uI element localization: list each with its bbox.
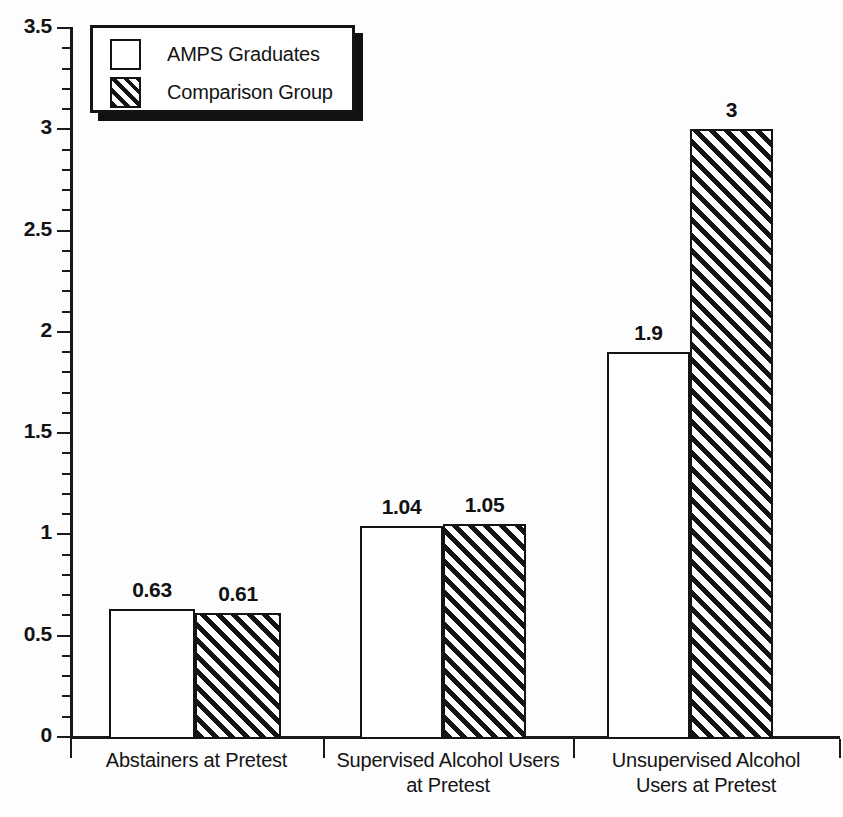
y-tick-minor [62,149,71,151]
y-tick-minor [62,594,71,596]
y-tick-label: 2 [0,318,52,342]
x-axis-label-line: Abstainers at Pretest [70,748,323,773]
y-tick-minor [62,452,71,454]
y-tick-minor [62,290,71,292]
x-axis-category-label: Abstainers at Pretest [70,748,323,773]
chart-page: 00.511.522.533.5 0.630.611.041.051.93 Ab… [0,0,843,817]
y-tick-minor [62,554,71,556]
category-separator-tick [839,739,841,758]
hatched-square-swatch-icon [110,77,141,108]
y-tick-minor [62,675,71,677]
y-tick-minor [62,655,71,657]
y-tick-major [57,533,71,535]
x-axis-label-line: Users at Pretest [573,773,839,798]
y-tick-major [57,128,71,130]
bar [607,352,690,739]
y-tick-label: 3 [0,115,52,139]
y-tick-minor [62,108,71,110]
x-axis-label-line: Unsupervised Alcohol [573,748,839,773]
y-tick-label: 1.5 [0,419,52,443]
bar [690,129,773,739]
y-tick-minor [62,88,71,90]
y-tick-minor [62,716,71,718]
bar-value-label: 1.9 [607,321,690,345]
y-tick-minor [62,695,71,697]
y-tick-major [57,736,71,738]
y-tick-minor [62,351,71,353]
y-axis-line [70,27,73,739]
y-tick-minor [62,513,71,515]
y-tick-major [57,230,71,232]
bar-value-label: 1.05 [443,493,526,517]
bar-value-label: 0.61 [195,582,281,606]
y-tick-minor [62,169,71,171]
bar-value-label: 3 [690,98,773,122]
white-square-swatch-icon [110,39,141,70]
y-tick-label: 2.5 [0,217,52,241]
bar [360,526,443,739]
bar [109,609,195,739]
x-axis-category-label: Unsupervised AlcoholUsers at Pretest [573,748,839,798]
bar-value-label: 1.04 [360,495,443,519]
bar [443,524,526,739]
x-axis-category-label: Supervised Alcohol Usersat Pretest [323,748,573,798]
y-tick-label: 3.5 [0,14,52,38]
chart-legend: AMPS Graduates Comparison Group [90,25,355,113]
y-tick-major [57,27,71,29]
y-tick-minor [62,392,71,394]
legend-item-amps-graduates: AMPS Graduates [110,37,352,72]
y-tick-major [57,635,71,637]
y-tick-minor [62,68,71,70]
y-tick-minor [62,250,71,252]
y-tick-minor [62,473,71,475]
y-tick-major [57,432,71,434]
y-tick-label: 1 [0,520,52,544]
y-tick-label: 0.5 [0,622,52,646]
bar-value-label: 0.63 [109,578,195,602]
bar [195,613,281,739]
y-tick-minor [62,574,71,576]
y-tick-minor [62,270,71,272]
bar-chart-plot-area: 00.511.522.533.5 0.630.611.041.051.93 Ab… [0,0,843,817]
y-tick-minor [62,371,71,373]
y-tick-minor [62,493,71,495]
x-axis-label-line: at Pretest [323,773,573,798]
y-tick-minor [62,209,71,211]
legend-label-comparison-group: Comparison Group [167,81,333,104]
y-tick-minor [62,47,71,49]
legend-label-amps-graduates: AMPS Graduates [167,43,320,66]
y-tick-major [57,331,71,333]
y-tick-minor [62,189,71,191]
y-tick-minor [62,614,71,616]
x-axis-label-line: Supervised Alcohol Users [323,748,573,773]
legend-item-comparison-group: Comparison Group [110,75,352,110]
y-tick-minor [62,311,71,313]
y-tick-minor [62,412,71,414]
y-tick-label: 0 [0,723,52,747]
